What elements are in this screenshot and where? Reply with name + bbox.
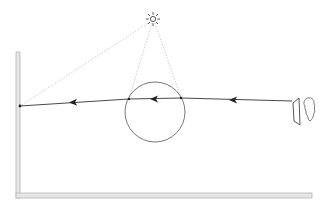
sun-icon bbox=[146, 12, 160, 26]
sun-rays-dotted bbox=[20, 22, 181, 106]
droplet-circle bbox=[125, 82, 185, 142]
exit-point bbox=[180, 97, 182, 99]
arrow-icon bbox=[69, 96, 237, 106]
wall-point bbox=[19, 105, 22, 108]
eye-face-icon bbox=[304, 98, 315, 121]
wall bbox=[16, 52, 20, 198]
floor bbox=[16, 193, 312, 198]
viewing-card-icon bbox=[293, 98, 300, 125]
entry-point bbox=[128, 98, 130, 100]
diagram-canvas bbox=[0, 0, 336, 208]
